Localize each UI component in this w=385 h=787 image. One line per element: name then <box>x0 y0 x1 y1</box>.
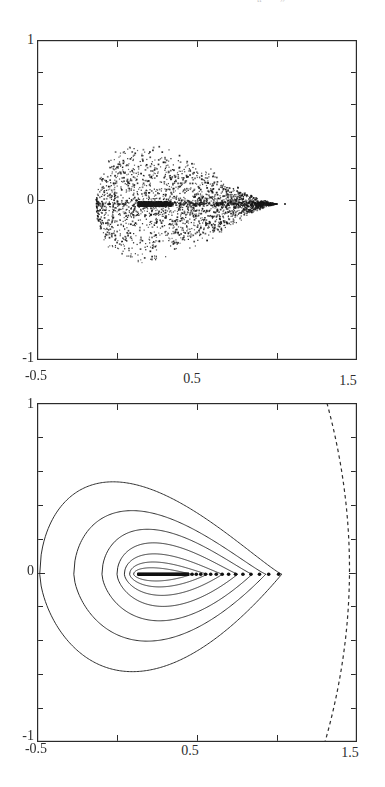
cropped-caption-fragment-right: ” <box>280 0 285 6</box>
top-y-tick-label-0: 0 <box>8 193 34 207</box>
top-x-tick-label-neg05: -0.5 <box>18 369 54 383</box>
top-x-tick-label-05: 0.5 <box>174 372 210 386</box>
bottom-y-tick-label-1: 1 <box>8 397 34 411</box>
contour-plot-canvas <box>37 403 357 742</box>
cropped-caption-fragment-left: “ <box>257 0 262 6</box>
bottom-y-tick-label-0: 0 <box>8 564 34 578</box>
bottom-x-tick-label-05: 0.5 <box>172 744 208 758</box>
top-y-tick-label-neg1: -1 <box>8 351 34 365</box>
document-page: “ ” 1 0 -1 -0.5 0.5 1.5 1 0 -1 -0.5 0.5 … <box>0 0 385 787</box>
top-y-tick-label-1: 1 <box>8 33 34 47</box>
bottom-x-tick-label-15: 1.5 <box>332 746 368 760</box>
top-x-tick-label-15: 1.5 <box>330 374 366 388</box>
scatter-plot-canvas <box>37 40 357 360</box>
bottom-x-tick-label-neg05: -0.5 <box>18 742 54 756</box>
